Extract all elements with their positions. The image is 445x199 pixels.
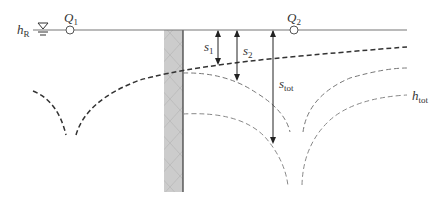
label-Q1: Q1 bbox=[64, 10, 78, 27]
label-s-tot: stot bbox=[279, 76, 294, 93]
arrow-s1 bbox=[215, 30, 221, 65]
label-Q2: Q2 bbox=[287, 10, 301, 27]
well-Q1-icon bbox=[66, 26, 74, 34]
drawdown-diagram: hR Q1 Q2 htot s1 s2 stot bbox=[0, 0, 445, 199]
label-s2: s2 bbox=[243, 43, 253, 60]
drawdown-curve-total-left bbox=[183, 114, 288, 186]
drawdown-curve-Q2-right bbox=[303, 68, 407, 132]
sheet-pile-wall bbox=[164, 30, 183, 192]
drawdown-curve-image-well bbox=[33, 91, 66, 135]
arrow-s-tot bbox=[270, 30, 276, 144]
label-h-tot: htot bbox=[412, 88, 429, 105]
arrow-s2 bbox=[234, 30, 240, 81]
well-Q2-icon bbox=[290, 26, 298, 34]
label-h-R: hR bbox=[17, 22, 30, 39]
label-s1: s1 bbox=[204, 39, 214, 56]
drawdown-curve-total-right bbox=[302, 95, 407, 185]
water-level-symbol-icon bbox=[38, 23, 48, 35]
drawdown-curve-Q2-left bbox=[183, 73, 290, 132]
